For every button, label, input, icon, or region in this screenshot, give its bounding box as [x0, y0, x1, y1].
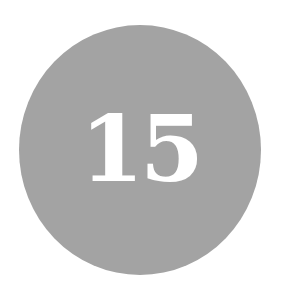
badge-number: 15 [80, 103, 200, 195]
number-badge: 15 [19, 25, 261, 275]
